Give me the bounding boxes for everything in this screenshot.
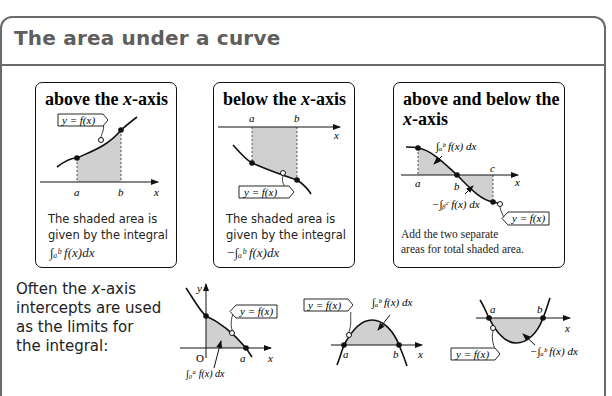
svg-text:a: a [240,352,246,364]
svg-text:b: b [454,180,460,192]
svg-text:x: x [333,129,339,141]
svg-text:y = f(x): y = f(x) [455,348,489,361]
svg-text:c: c [490,162,495,174]
graph-above-axis: y = f(x) a b x [40,114,159,198]
svg-text:∫₀ᵃ f(x) dx: ∫₀ᵃ f(x) dx [185,368,225,380]
example-graph-valley: y = f(x) a b x −∫ₐᵇ f(x) dx [451,298,578,361]
svg-text:x: x [514,176,520,188]
svg-text:−∫ᵦᶜ f(x) dx: −∫ᵦᶜ f(x) dx [432,198,480,211]
svg-text:∫ₐᵇ f(x) dx: ∫ₐᵇ f(x) dx [435,140,476,153]
svg-text:b: b [537,303,543,315]
svg-text:y: y [196,282,202,294]
svg-text:y = f(x): y = f(x) [61,114,95,127]
svg-text:x: x [564,322,570,334]
svg-text:b: b [393,348,399,360]
svg-text:O: O [196,352,204,364]
svg-text:y = f(x): y = f(x) [307,299,341,312]
svg-text:y = f(x): y = f(x) [243,186,277,199]
svg-text:b: b [294,112,300,124]
example-graph-hump: y = f(x) ∫ₐᵇ f(x) dx a b x [304,296,423,366]
graph-above-and-below-axis: y = f(x) ∫ₐᵇ f(x) dx −∫ᵦᶜ f(x) dx a b c … [401,140,549,225]
svg-text:x: x [417,348,423,360]
svg-text:a: a [249,112,255,124]
svg-text:−∫ₐᵇ f(x) dx: −∫ₐᵇ f(x) dx [530,345,578,358]
svg-text:a: a [415,177,421,189]
svg-text:x: x [267,352,273,364]
example-graph-decreasing: y = f(x) y O a x ∫₀ᵃ f(x) dx [180,282,277,380]
svg-text:a: a [343,348,349,360]
graph-below-axis: y = f(x) a b x [218,112,340,199]
svg-text:y = f(x): y = f(x) [239,305,273,318]
svg-text:a: a [490,303,496,315]
svg-text:a: a [74,186,80,198]
svg-text:∫ₐᵇ f(x) dx: ∫ₐᵇ f(x) dx [371,296,412,309]
svg-text:b: b [118,186,124,198]
svg-text:y = f(x): y = f(x) [511,212,545,225]
svg-text:x: x [153,186,159,198]
